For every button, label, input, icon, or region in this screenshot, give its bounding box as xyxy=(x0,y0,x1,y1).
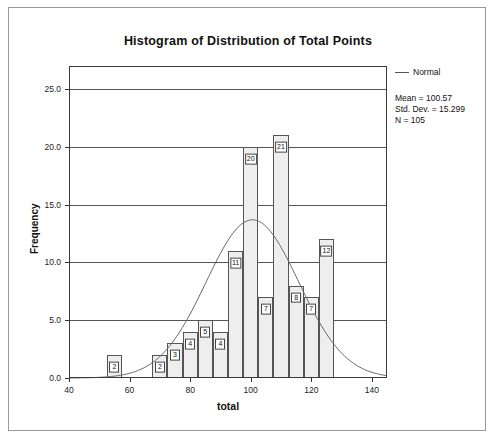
histogram-bar xyxy=(273,135,288,378)
bar-value-label: 12 xyxy=(321,246,333,257)
bar-value-label: 4 xyxy=(215,338,225,349)
y-tick-label: 0.0 xyxy=(49,373,61,383)
legend-label-normal: Normal xyxy=(413,67,440,77)
stats-annotation-block: Mean = 100.57 Std. Dev. = 15.299 N = 105 xyxy=(395,93,465,126)
bar-value-label: 8 xyxy=(291,292,301,303)
x-tick-mark xyxy=(251,378,252,382)
stat-std-dev: Std. Dev. = 15.299 xyxy=(395,104,465,115)
x-tick-label: 60 xyxy=(125,385,134,395)
y-tick-mark xyxy=(65,147,69,148)
y-tick-mark xyxy=(65,89,69,90)
histogram-bar xyxy=(319,239,334,378)
x-tick-mark xyxy=(69,378,70,382)
x-tick-mark xyxy=(372,378,373,382)
legend: Normal xyxy=(395,67,440,77)
y-tick-mark xyxy=(65,262,69,263)
bar-value-label: 20 xyxy=(245,154,257,165)
bar-value-label: 7 xyxy=(306,304,316,315)
chart-frame: Histogram of Distribution of Total Point… xyxy=(8,7,486,431)
bar-value-label: 7 xyxy=(261,304,271,315)
x-axis-title: total xyxy=(188,400,268,412)
gridline xyxy=(69,89,387,90)
gridline xyxy=(69,147,387,148)
histogram-bar xyxy=(243,147,258,378)
bar-value-label: 3 xyxy=(170,350,180,361)
x-tick-mark xyxy=(311,378,312,382)
x-tick-label: 140 xyxy=(365,385,379,395)
bar-value-label: 4 xyxy=(185,338,195,349)
y-tick-label: 20.0 xyxy=(44,142,61,152)
x-tick-label: 80 xyxy=(185,385,194,395)
y-tick-label: 15.0 xyxy=(44,200,61,210)
y-tick-label: 10.0 xyxy=(44,257,61,267)
stat-mean: Mean = 100.57 xyxy=(395,93,465,104)
bar-value-label: 21 xyxy=(275,142,287,153)
bar-value-label: 11 xyxy=(230,258,241,269)
chart-title: Histogram of Distribution of Total Point… xyxy=(9,34,487,48)
bar-value-label: 2 xyxy=(109,362,119,373)
histogram-bar xyxy=(228,251,243,378)
x-tick-mark xyxy=(190,378,191,382)
x-tick-label: 40 xyxy=(64,385,73,395)
x-tick-label: 120 xyxy=(304,385,318,395)
legend-line-normal xyxy=(395,72,409,73)
y-tick-label: 25.0 xyxy=(44,84,61,94)
bar-value-label: 2 xyxy=(155,362,165,373)
x-tick-mark xyxy=(130,378,131,382)
y-axis-title: Frequency xyxy=(29,203,40,254)
bar-value-label: 5 xyxy=(200,327,210,338)
x-tick-label: 100 xyxy=(244,385,258,395)
y-tick-mark xyxy=(65,205,69,206)
stat-n: N = 105 xyxy=(395,115,465,126)
y-tick-label: 5.0 xyxy=(49,315,61,325)
plot-area: 22345411207218712 xyxy=(69,66,387,378)
gridline xyxy=(69,205,387,206)
y-tick-mark xyxy=(65,320,69,321)
